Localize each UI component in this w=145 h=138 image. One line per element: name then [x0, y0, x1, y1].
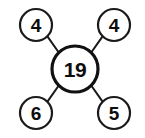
node-label-bottom-right: 5 — [109, 103, 120, 124]
node-label-top-left: 4 — [31, 15, 42, 36]
connector-center-to-bottom-right — [91, 85, 103, 102]
node-label-top-right: 4 — [109, 15, 120, 36]
node-top-right[interactable]: 4 — [98, 9, 130, 41]
node-center[interactable]: 19 — [52, 46, 98, 92]
connector-center-to-bottom-left — [48, 85, 60, 102]
node-label-bottom-left: 6 — [31, 103, 42, 124]
node-label-center: 19 — [64, 58, 86, 81]
connector-center-to-top-right — [91, 37, 103, 54]
node-top-left[interactable]: 4 — [20, 9, 52, 41]
node-bottom-right[interactable]: 5 — [98, 97, 130, 129]
connector-center-to-top-left — [48, 37, 60, 54]
node-bottom-left[interactable]: 6 — [20, 97, 52, 129]
number-wheel-graphic: 4 4 6 5 19 — [0, 0, 145, 138]
number-wheel-diagram: 4 4 6 5 19 — [0, 0, 145, 138]
